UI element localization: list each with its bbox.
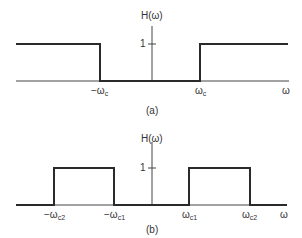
label-text: ω bbox=[195, 85, 203, 96]
label-subscript: c2 bbox=[250, 214, 257, 221]
label-subscript: c2 bbox=[58, 214, 65, 221]
label-text: −ω bbox=[44, 209, 58, 220]
label-text: ω bbox=[182, 209, 190, 220]
figure-b-neg-c1-label: −ωc1 bbox=[104, 210, 125, 221]
label-subscript: c1 bbox=[190, 214, 197, 221]
label-subscript: c bbox=[203, 90, 207, 97]
figure-a-plot bbox=[16, 26, 289, 81]
figure-a-caption: (a) bbox=[146, 106, 158, 116]
figure-b-pos-c2-label: ωc2 bbox=[242, 210, 257, 221]
label-text: ω bbox=[242, 209, 250, 220]
figure-a-neg-cutoff-label: −ωc bbox=[91, 86, 108, 97]
figure-a-tick-one-label: 1 bbox=[140, 39, 146, 49]
figure-a-pos-cutoff-label: ωc bbox=[195, 86, 206, 97]
figure-b-pos-c1-label: ωc1 bbox=[182, 210, 197, 221]
figure-b-x-axis-label: ω bbox=[280, 210, 288, 220]
label-text: −ω bbox=[91, 85, 105, 96]
figure-b-caption: (b) bbox=[146, 225, 158, 235]
label-text: −ω bbox=[104, 209, 118, 220]
figure-a-y-axis-label: H(ω) bbox=[141, 11, 163, 21]
figure-b-neg-c2-label: −ωc2 bbox=[44, 210, 65, 221]
figure-b-plot bbox=[16, 142, 287, 205]
label-subscript: c bbox=[105, 90, 109, 97]
figure-b-y-axis-label: H(ω) bbox=[141, 134, 163, 144]
figure-a-x-axis-label: ω bbox=[282, 86, 290, 96]
filter-response-diagram bbox=[0, 0, 302, 238]
figure-b-tick-one-label: 1 bbox=[140, 163, 146, 173]
label-subscript: c1 bbox=[118, 214, 125, 221]
